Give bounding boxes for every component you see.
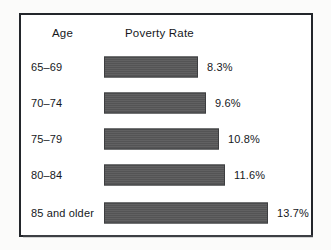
bar-value-label: 10.8% [228, 133, 260, 145]
chart-row: 85 and older 13.7% [21, 195, 311, 230]
column-header-age: Age [52, 27, 73, 39]
chart-row: 65–69 8.3% [21, 49, 311, 84]
row-label-age: 70–74 [31, 97, 62, 109]
bar [104, 164, 225, 185]
bar-value-label: 9.6% [215, 97, 241, 109]
row-label-age: 65–69 [31, 61, 62, 73]
chart-frame: Age Poverty Rate 65–69 8.3% 70–74 9.6% 7… [19, 13, 313, 237]
bar-value-label: 13.7% [277, 207, 309, 219]
chart-row: 70–74 9.6% [21, 85, 311, 120]
bar [104, 202, 268, 223]
chart-row: 75–79 10.8% [21, 121, 311, 156]
bar-value-label: 11.6% [234, 169, 265, 181]
row-label-age: 80–84 [31, 169, 62, 181]
bar [104, 56, 198, 77]
bar [104, 92, 206, 113]
chart-row: 80–84 11.6% [21, 157, 311, 192]
bar [104, 128, 219, 149]
row-label-age: 85 and older [31, 207, 94, 219]
row-label-age: 75–79 [31, 133, 62, 145]
bar-value-label: 8.3% [207, 61, 233, 73]
chart-rows: 65–69 8.3% 70–74 9.6% 75–79 10.8% 80–84 … [21, 49, 311, 235]
poverty-rate-bar-chart-figure: Age Poverty Rate 65–69 8.3% 70–74 9.6% 7… [0, 0, 331, 250]
chart-header-row: Age Poverty Rate [21, 15, 311, 49]
column-header-poverty-rate: Poverty Rate [125, 27, 194, 39]
